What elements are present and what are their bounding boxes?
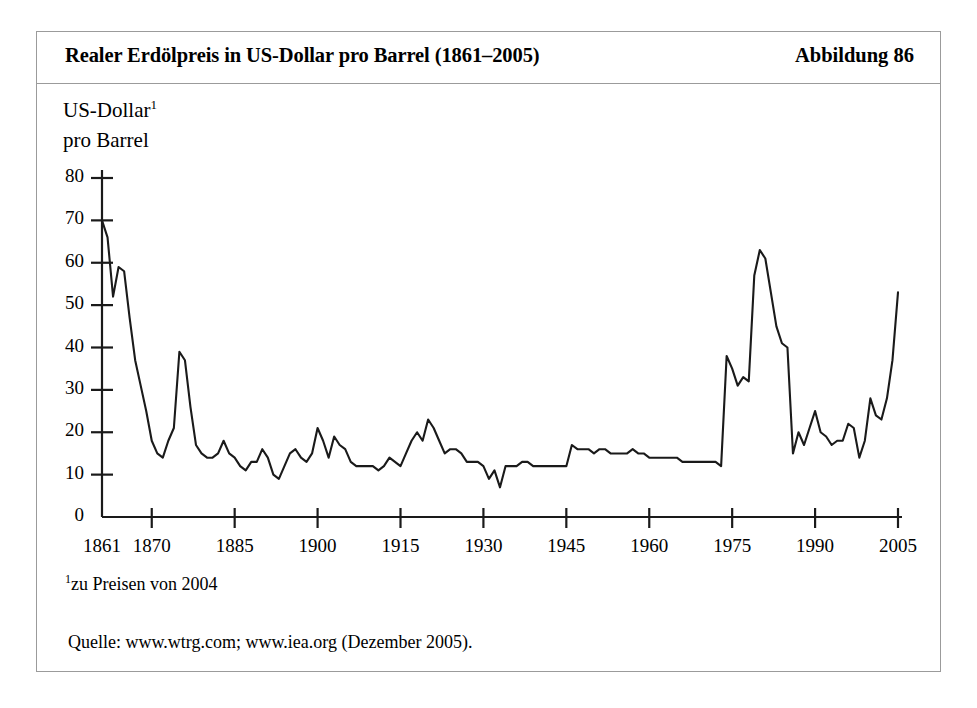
x-axis-tick-label: 2005 xyxy=(879,535,917,557)
figure-number-label: Abbildung 86 xyxy=(795,44,914,67)
footnote-text: zu Preisen von 2004 xyxy=(71,574,217,594)
y-axis-tick-label: 0 xyxy=(42,504,84,526)
x-axis-tick-label: 1915 xyxy=(382,535,420,557)
series-line-0 xyxy=(102,220,898,487)
y-axis-title: US-Dollar1 pro Barrel xyxy=(63,95,157,155)
y-axis-tick-label: 80 xyxy=(42,165,84,187)
figure-header: Realer Erdölpreis in US-Dollar pro Barre… xyxy=(37,32,940,84)
x-axis-tick-label: 1885 xyxy=(216,535,254,557)
y-axis-tick-label: 60 xyxy=(42,250,84,272)
chart-axes xyxy=(91,170,902,528)
source-note: Quelle: www.wtrg.com; www.iea.org (Dezem… xyxy=(68,632,472,653)
y-axis-tick-label: 70 xyxy=(42,207,84,229)
y-axis-tick-label: 50 xyxy=(42,292,84,314)
x-axis-tick-label: 1945 xyxy=(547,535,585,557)
y-axis-tick-label: 20 xyxy=(42,419,84,441)
x-axis-tick-label: 1960 xyxy=(630,535,668,557)
x-axis-tick-label: 1975 xyxy=(713,535,751,557)
figure-frame: Realer Erdölpreis in US-Dollar pro Barre… xyxy=(36,31,941,672)
x-axis-tick-label: 1930 xyxy=(464,535,502,557)
x-axis-tick-label: 1870 xyxy=(133,535,171,557)
y-axis-tick-label: 30 xyxy=(42,377,84,399)
x-axis-tick-label: 1861 xyxy=(83,535,121,557)
footnote-marker-superscript: 1 xyxy=(151,97,158,112)
y-axis-title-line1: US-Dollar1 xyxy=(63,95,157,125)
y-axis-title-text: US-Dollar xyxy=(63,98,151,122)
y-axis-tick-label: 40 xyxy=(42,335,84,357)
footnote: 1zu Preisen von 2004 xyxy=(65,574,217,595)
y-axis-title-line2: pro Barrel xyxy=(63,125,157,155)
chart-series xyxy=(102,220,898,487)
x-axis-tick-label: 1990 xyxy=(796,535,834,557)
page-title: Realer Erdölpreis in US-Dollar pro Barre… xyxy=(65,44,540,67)
x-axis-tick-label: 1900 xyxy=(299,535,337,557)
y-axis-tick-label: 10 xyxy=(42,462,84,484)
